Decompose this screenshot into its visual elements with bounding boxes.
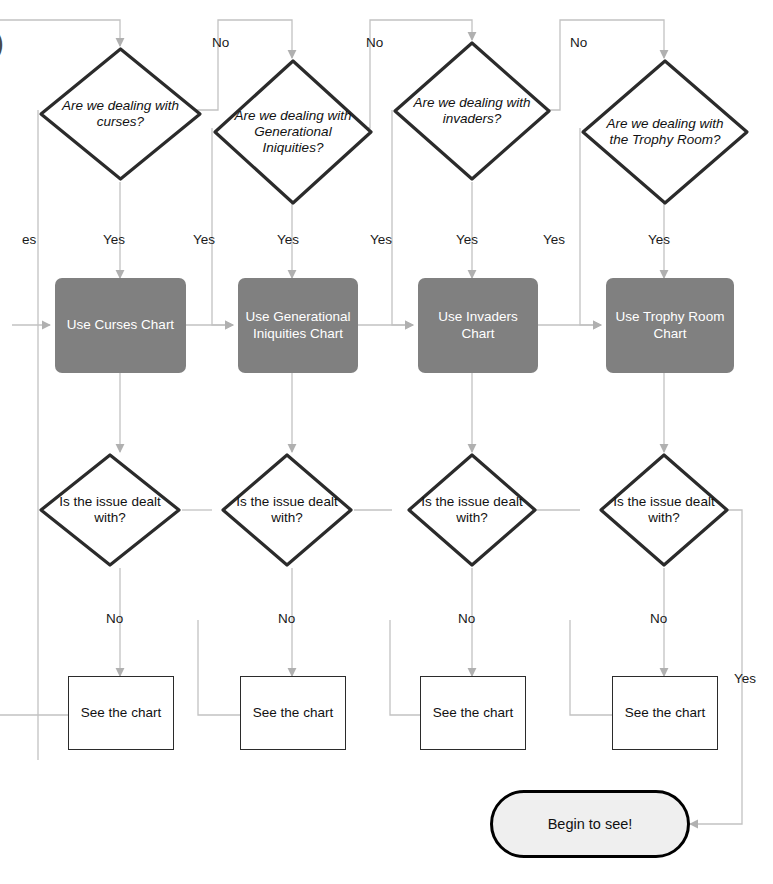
edge-label-no-top-2: No	[366, 36, 383, 50]
edge-label-no-2: No	[278, 612, 295, 626]
decision-generational-iniquities[interactable]: Are we dealing with Generational Iniquit…	[212, 58, 374, 206]
edge-label-yes-clipped: es	[22, 233, 36, 247]
edge-label-no-4: No	[650, 612, 667, 626]
decision-label: Are we dealing with Generational Iniquit…	[230, 108, 356, 156]
edge-label-yes-3: Yes	[277, 233, 299, 247]
process-label: Use Generational Iniquities Chart	[243, 309, 353, 341]
outcome-see-the-chart-4[interactable]: See the chart	[612, 676, 718, 750]
terminator-label: Begin to see!	[548, 816, 633, 832]
edge-label-yes-6: Yes	[543, 233, 565, 247]
outcome-label: See the chart	[253, 705, 333, 721]
process-use-curses-chart[interactable]: Use Curses Chart	[55, 278, 186, 373]
process-label: Use Trophy Room Chart	[611, 309, 729, 341]
terminator-begin-to-see[interactable]: Begin to see!	[490, 790, 690, 858]
outcome-see-the-chart-3[interactable]: See the chart	[420, 676, 526, 750]
edge-label-no-top-1: No	[212, 36, 229, 50]
process-use-invaders-chart[interactable]: Use Invaders Chart	[418, 278, 538, 373]
flowchart-canvas: ) Are we dealing with curses? Are we dea…	[0, 0, 773, 884]
decision-trophy-room[interactable]: Are we dealing with the Trophy Room?	[580, 58, 750, 206]
check-label: Is the issue dealt with?	[613, 494, 716, 526]
process-label: Use Curses Chart	[60, 317, 181, 333]
edge-label-yes-4: Yes	[370, 233, 392, 247]
check-issue-dealt-with-1[interactable]: Is the issue dealt with?	[38, 452, 182, 568]
check-label: Is the issue dealt with?	[421, 494, 524, 526]
edge-label-yes-final: Yes	[734, 672, 756, 686]
outcome-label: See the chart	[433, 705, 513, 721]
edge-label-yes-1: Yes	[103, 233, 125, 247]
process-use-trophy-room-chart[interactable]: Use Trophy Room Chart	[606, 278, 734, 373]
decision-label: Are we dealing with curses?	[56, 98, 185, 130]
edge-label-no-top-3: No	[570, 36, 587, 50]
edge-label-no-1: No	[106, 612, 123, 626]
decision-label: Are we dealing with invaders?	[410, 95, 535, 127]
outcome-see-the-chart-2[interactable]: See the chart	[240, 676, 346, 750]
decision-curses[interactable]: Are we dealing with curses?	[38, 46, 203, 182]
check-label: Is the issue dealt with?	[54, 494, 166, 526]
edge-label-yes-5: Yes	[456, 233, 478, 247]
check-issue-dealt-with-4[interactable]: Is the issue dealt with?	[598, 452, 730, 568]
edge-label-yes-2: Yes	[193, 233, 215, 247]
edge-label-no-3: No	[458, 612, 475, 626]
check-issue-dealt-with-3[interactable]: Is the issue dealt with?	[406, 452, 538, 568]
outcome-label: See the chart	[81, 705, 161, 721]
decision-invaders[interactable]: Are we dealing with invaders?	[392, 40, 552, 182]
outcome-see-the-chart-1[interactable]: See the chart	[68, 676, 174, 750]
process-use-generational-iniquities-chart[interactable]: Use Generational Iniquities Chart	[238, 278, 358, 373]
decision-label: Are we dealing with the Trophy Room?	[599, 116, 732, 148]
check-label: Is the issue dealt with?	[235, 494, 340, 526]
check-issue-dealt-with-2[interactable]: Is the issue dealt with?	[220, 452, 354, 568]
outcome-label: See the chart	[625, 705, 705, 721]
process-label: Use Invaders Chart	[423, 309, 533, 341]
clipped-shape-glyph: )	[0, 26, 4, 60]
edge-label-yes-7: Yes	[648, 233, 670, 247]
